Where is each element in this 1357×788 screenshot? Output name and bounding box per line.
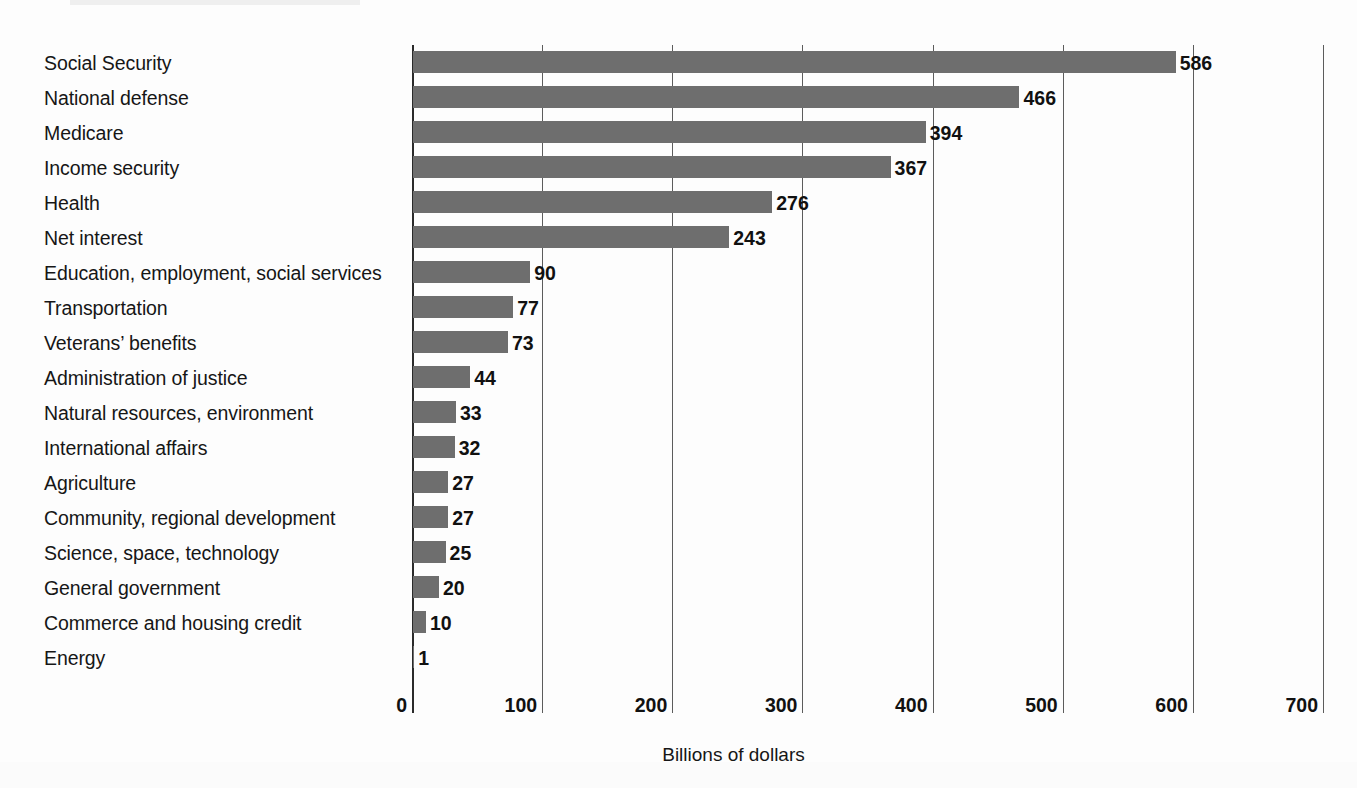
bar-row[interactable]: Commerce and housing credit10 bbox=[0, 605, 1357, 640]
bar-value-label: 25 bbox=[450, 541, 472, 564]
bar-value-label: 27 bbox=[452, 506, 474, 529]
bar[interactable] bbox=[413, 156, 891, 178]
x-tick-label-300: 300 bbox=[765, 694, 803, 717]
bar-category-label: Medicare bbox=[44, 121, 123, 144]
bar-value-label: 20 bbox=[443, 576, 465, 599]
bar[interactable] bbox=[413, 331, 508, 353]
bar-row[interactable]: Administration of justice44 bbox=[0, 360, 1357, 395]
bar[interactable] bbox=[413, 366, 470, 388]
bar-category-label: Commerce and housing credit bbox=[44, 611, 301, 634]
bar-row[interactable]: Energy1 bbox=[0, 640, 1357, 675]
bar-category-label: Natural resources, environment bbox=[44, 401, 313, 424]
bar-category-label: National defense bbox=[44, 86, 189, 109]
bar-category-label: Veterans’ benefits bbox=[44, 331, 197, 354]
bar-row[interactable]: Community, regional development27 bbox=[0, 500, 1357, 535]
bar[interactable] bbox=[413, 611, 426, 633]
bar-category-label: Health bbox=[44, 191, 100, 214]
bar[interactable] bbox=[413, 436, 455, 458]
x-axis-label-text: Billions of dollars bbox=[662, 744, 805, 765]
bar[interactable] bbox=[413, 646, 414, 668]
bar-row[interactable]: Natural resources, environment33 bbox=[0, 395, 1357, 430]
bar-category-label: General government bbox=[44, 576, 220, 599]
bar-value-label: 1 bbox=[418, 646, 429, 669]
x-tick-label-400: 400 bbox=[895, 694, 933, 717]
bar-row[interactable]: Social Security586 bbox=[0, 45, 1357, 80]
bar[interactable] bbox=[413, 296, 513, 318]
plot-area: Social Security586National defense466Med… bbox=[0, 0, 1357, 788]
bar-row[interactable]: Transportation77 bbox=[0, 290, 1357, 325]
bar-value-label: 32 bbox=[459, 436, 481, 459]
bar[interactable] bbox=[413, 471, 448, 493]
bar-row[interactable]: National defense466 bbox=[0, 80, 1357, 115]
bar-row[interactable]: Health276 bbox=[0, 185, 1357, 220]
bar[interactable] bbox=[413, 506, 448, 528]
bar-row[interactable]: Income security367 bbox=[0, 150, 1357, 185]
bar-value-label: 466 bbox=[1023, 86, 1056, 109]
bar-category-label: Administration of justice bbox=[44, 366, 247, 389]
bar-category-label: Transportation bbox=[44, 296, 168, 319]
bar-value-label: 33 bbox=[460, 401, 482, 424]
bar[interactable] bbox=[413, 191, 772, 213]
x-tick-label-0: 0 bbox=[396, 694, 412, 717]
bar-row[interactable]: Agriculture27 bbox=[0, 465, 1357, 500]
bar-value-label: 276 bbox=[776, 191, 809, 214]
x-tick-label-100: 100 bbox=[505, 694, 543, 717]
bar-category-label: Education, employment, social services bbox=[44, 261, 382, 284]
bar-value-label: 73 bbox=[512, 331, 534, 354]
bar-row[interactable]: Science, space, technology25 bbox=[0, 535, 1357, 570]
bar-category-label: Social Security bbox=[44, 51, 171, 74]
bar-category-label: Science, space, technology bbox=[44, 541, 279, 564]
x-tick-label-200: 200 bbox=[635, 694, 673, 717]
x-tick-label-500: 500 bbox=[1025, 694, 1063, 717]
bar-value-label: 367 bbox=[895, 156, 928, 179]
bar-category-label: Net interest bbox=[44, 226, 143, 249]
bar-row[interactable]: Veterans’ benefits73 bbox=[0, 325, 1357, 360]
bar-value-label: 27 bbox=[452, 471, 474, 494]
bar-value-label: 243 bbox=[733, 226, 766, 249]
bar-category-label: Community, regional development bbox=[44, 506, 335, 529]
bar[interactable] bbox=[413, 86, 1019, 108]
bar-category-label: Energy bbox=[44, 646, 105, 669]
bar-row[interactable]: General government20 bbox=[0, 570, 1357, 605]
bar-chart: Social Security586National defense466Med… bbox=[0, 0, 1357, 788]
bar-row[interactable]: Medicare394 bbox=[0, 115, 1357, 150]
bar-value-label: 44 bbox=[474, 366, 496, 389]
bar[interactable] bbox=[413, 576, 439, 598]
bar-value-label: 394 bbox=[930, 121, 963, 144]
bar[interactable] bbox=[413, 261, 530, 283]
bar-category-label: Income security bbox=[44, 156, 179, 179]
bar-category-label: Agriculture bbox=[44, 471, 136, 494]
bar[interactable] bbox=[413, 121, 926, 143]
bar-value-label: 10 bbox=[430, 611, 452, 634]
bar-value-label: 90 bbox=[534, 261, 556, 284]
bar[interactable] bbox=[413, 226, 729, 248]
x-tick-label-700: 700 bbox=[1285, 694, 1323, 717]
bar-row[interactable]: Education, employment, social services90 bbox=[0, 255, 1357, 290]
bar-value-label: 586 bbox=[1180, 51, 1213, 74]
x-axis-label: Billions of dollars bbox=[0, 744, 1357, 766]
bar[interactable] bbox=[413, 401, 456, 423]
bar-value-label: 77 bbox=[517, 296, 539, 319]
bar[interactable] bbox=[413, 541, 446, 563]
bar-row[interactable]: International affairs32 bbox=[0, 430, 1357, 465]
bar-category-label: International affairs bbox=[44, 436, 207, 459]
x-tick-label-600: 600 bbox=[1155, 694, 1193, 717]
bar[interactable] bbox=[413, 51, 1176, 73]
bar-row[interactable]: Net interest243 bbox=[0, 220, 1357, 255]
